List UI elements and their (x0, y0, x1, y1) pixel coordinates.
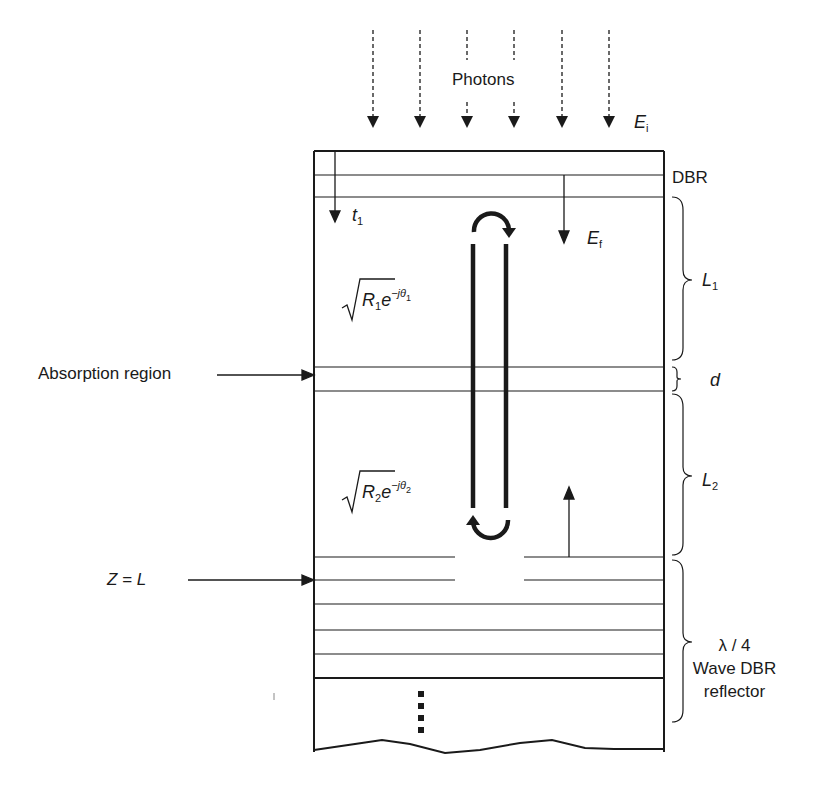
l2-label: L2 (702, 470, 718, 492)
incident-field-label: Ei (634, 112, 648, 134)
bottom-reflection-formula: R2e−jθ2 (362, 479, 411, 504)
transmission-label: t1 (352, 205, 363, 227)
z-equals-l-label: Z = L (107, 570, 146, 590)
l1-label: L1 (702, 270, 718, 292)
bottom-dbr-label-line1: λ / 4 (692, 634, 777, 657)
forward-field-arrow (559, 175, 569, 243)
absorption-arrow (217, 370, 314, 380)
top-reflection-formula: R1e−jθ1 (362, 287, 411, 312)
top-dbr-label: DBR (672, 168, 708, 188)
absorption-region-label: Absorption region (38, 364, 171, 384)
round-trip-path (473, 213, 509, 538)
backward-field-arrow (564, 487, 574, 557)
sqrt-symbols (342, 279, 395, 512)
z-equals-l-arrow (188, 575, 314, 585)
continuation-dots (418, 691, 424, 733)
photons-label: Photons (452, 70, 514, 90)
transmission-arrow (330, 151, 340, 222)
bottom-dbr-label: λ / 4 Wave DBR reflector (692, 634, 777, 703)
d-label: d (710, 370, 720, 391)
bottom-dbr-label-line2: Wave DBR (692, 657, 777, 680)
bottom-dbr-label-line3: reflector (692, 680, 777, 703)
forward-field-label: Ef (587, 228, 602, 250)
photon-arrowheads (367, 116, 615, 128)
device-box (314, 151, 664, 753)
braces (672, 197, 692, 722)
